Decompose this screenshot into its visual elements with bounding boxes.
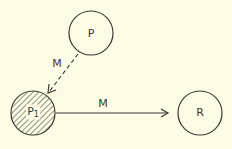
edge-p-to-p1-label: M (52, 58, 62, 69)
node-p1-label: P1 (26, 105, 40, 120)
diagram-graphics (0, 0, 232, 149)
node-r-label: R (196, 107, 204, 118)
node-p1-subscript: 1 (34, 110, 39, 119)
node-p-label: P (88, 28, 95, 39)
node-r-text: R (196, 106, 204, 119)
node-p-text: P (88, 27, 95, 40)
node-p1-text: P (27, 105, 34, 118)
edge-p1-to-r-text: M (98, 97, 108, 110)
edge-p1-to-r-label: M (98, 98, 108, 109)
edge-p-to-p1-text: M (52, 57, 62, 70)
diagram-canvas: P P1 R M M (0, 0, 232, 149)
